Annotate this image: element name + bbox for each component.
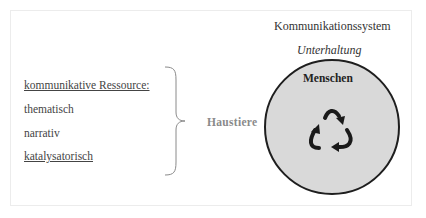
cycle-arrows-icon — [303, 104, 359, 156]
resource-heading: kommunikative Ressource: — [24, 80, 150, 92]
curly-brace-icon — [164, 66, 186, 176]
circle-label-menschen: Menschen — [303, 73, 353, 85]
resource-item-thematisch: thematisch — [24, 104, 74, 116]
resource-item-katalysatorisch: katalysatorisch — [24, 151, 93, 163]
system-title: Kommunikationssystem — [274, 20, 391, 32]
system-subtitle: Unterhaltung — [297, 44, 361, 56]
connector-label-haustiere: Haustiere — [207, 117, 257, 129]
resource-item-narrativ: narrativ — [24, 128, 60, 140]
